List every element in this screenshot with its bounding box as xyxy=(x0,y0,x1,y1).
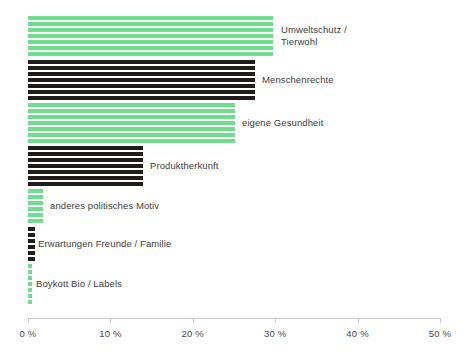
bar-label-erwartungen-freunde-familie: Erwartungen Freunde / Familie xyxy=(38,238,171,250)
bar-row: Produktherkunft xyxy=(0,146,472,186)
bar-label-anderes-politisches-motiv: anderes politisches Motiv xyxy=(50,200,159,212)
x-tick xyxy=(193,318,194,323)
bar-chart: Umweltschutz / Tierwohl Menschenrechte e… xyxy=(0,0,472,354)
x-tick-label-40: 40 % xyxy=(346,328,368,339)
x-tick xyxy=(110,318,111,323)
bar-label-umweltschutz-tierwohl: Umweltschutz / Tierwohl xyxy=(281,24,347,48)
x-tick-label-20: 20 % xyxy=(182,328,204,339)
axis-line xyxy=(28,318,440,319)
x-tick-label-0: 0 % xyxy=(20,328,37,339)
bar-menschenrechte[interactable] xyxy=(28,60,255,100)
bar-row: Erwartungen Freunde / Familie xyxy=(0,227,472,261)
bar-label-boykott-bio-labels: Boykott Bio / Labels xyxy=(36,278,122,290)
bar-erwartungen-freunde-familie[interactable] xyxy=(28,227,35,261)
bar-anderes-politisches-motiv[interactable] xyxy=(28,189,43,223)
bar-umweltschutz-tierwohl[interactable] xyxy=(28,16,273,56)
bar-row: Umweltschutz / Tierwohl xyxy=(0,16,472,56)
x-tick-label-50: 50 % xyxy=(429,328,451,339)
x-tick xyxy=(440,318,441,323)
bar-produktherkunft[interactable] xyxy=(28,146,143,186)
bar-row: Boykott Bio / Labels xyxy=(0,264,472,304)
bar-eigene-gesundheit[interactable] xyxy=(28,103,235,143)
x-tick xyxy=(28,318,29,323)
x-tick xyxy=(275,318,276,323)
bar-label-eigene-gesundheit: eigene Gesundheit xyxy=(242,117,323,129)
x-tick xyxy=(358,318,359,323)
plot-area: Umweltschutz / Tierwohl Menschenrechte e… xyxy=(0,0,472,312)
bar-label-produktherkunft: Produktherkunft xyxy=(150,160,219,172)
bar-row: Menschenrechte xyxy=(0,60,472,100)
x-axis: 0 % 10 % 20 % 30 % 40 % 50 % xyxy=(0,312,472,354)
x-tick-label-30: 30 % xyxy=(264,328,286,339)
bar-label-menschenrechte: Menschenrechte xyxy=(262,74,334,86)
bar-boykott-bio-labels[interactable] xyxy=(28,264,32,304)
x-tick-label-10: 10 % xyxy=(99,328,121,339)
bar-row: anderes politisches Motiv xyxy=(0,189,472,223)
bar-row: eigene Gesundheit xyxy=(0,103,472,143)
